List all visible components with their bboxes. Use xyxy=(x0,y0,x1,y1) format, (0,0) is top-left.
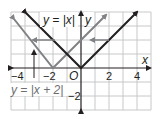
tick-label-neg4: −4 xyxy=(11,70,24,82)
tick-label-neg2: −2 xyxy=(43,70,56,82)
x-axis-label: x xyxy=(141,53,149,67)
origin-label: O xyxy=(69,69,78,83)
y-axis-label: y xyxy=(84,13,92,27)
graph: y = |x| y x −4 −2 O 2 4 −2 y = |x + 2| xyxy=(0,0,164,119)
tick-label-y-neg2: −2 xyxy=(68,90,81,102)
translated-equation-label: y = |x + 2| xyxy=(10,83,63,97)
tick-label-2: 2 xyxy=(106,70,112,82)
tick-label-4: 4 xyxy=(134,70,140,82)
parent-equation-label: y = |x| xyxy=(42,13,75,27)
